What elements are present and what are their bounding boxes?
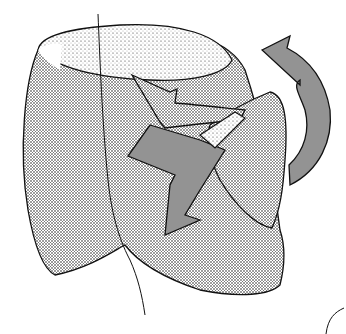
corner-curve <box>326 308 344 334</box>
illustration <box>0 0 346 334</box>
